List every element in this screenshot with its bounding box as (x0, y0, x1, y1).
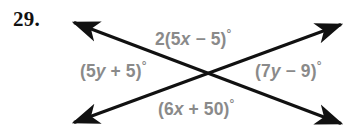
angle-label-right: (7y − 9)° (255, 63, 322, 81)
angle-label-top: 2(5x − 5)° (155, 31, 231, 49)
angle-label-left: (5y + 5)° (80, 63, 147, 81)
angle-label-bottom: (6x + 50)° (158, 101, 234, 119)
geometry-figure: 29. 2(5x − 5)° (5y + 5)° (7y − 9)° (6x +… (0, 0, 362, 140)
